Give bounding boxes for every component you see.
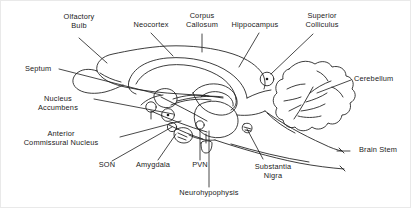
label-olfactory-bulb: Olfactory Bulb [64, 13, 95, 30]
midbrain-dorsal [247, 90, 271, 98]
label-neocortex: Neocortex [133, 21, 168, 30]
anterior-commissure-arc [141, 95, 163, 105]
nucleus-accumbens-dot [167, 114, 170, 117]
label-hippocampus: Hippocampus [232, 21, 279, 30]
label-corpus-callosum: Corpus Callosum [186, 12, 218, 29]
superior-colliculus-dot [266, 78, 269, 81]
cerebellum-arbor-main [294, 87, 313, 119]
amygdala-hatch-1 [178, 133, 187, 137]
label-pvn: PVN [192, 161, 208, 170]
label-neurohypophysis: Neurohypophysis [179, 189, 238, 198]
cerebellum-arbor-b2 [301, 104, 325, 111]
label-anterior-commissural-nucleus: Anterior Commissural Nucleus [24, 130, 99, 147]
label-nucleus-accumbens: Nucleus Accumbens [38, 95, 78, 112]
leader-son [112, 127, 172, 161]
cerebellum-folia-1 [287, 84, 305, 89]
cerebellum-folia-3 [289, 105, 301, 111]
corpus-callosum-outer [129, 58, 247, 98]
hippocampus-inner-fold [201, 92, 233, 106]
neurohypophysis-outline [201, 141, 212, 153]
brain-diagram-figure: Olfactory Bulb Neocortex Corpus Callosum… [0, 0, 411, 208]
label-amygdala: Amygdala [136, 161, 170, 170]
amygdala-hatch-2 [178, 137, 186, 140]
cerebellum-folia-5 [332, 87, 343, 97]
label-superior-colliculus: Superior Colliculus [305, 12, 338, 29]
leader-neocortex [151, 33, 173, 56]
leader-anterior-commissural [120, 121, 181, 137]
leader-superior-colliculus [271, 34, 313, 74]
label-brain-stem: Brain Stem [359, 146, 397, 155]
label-cerebellum: Cerebellum [354, 75, 393, 84]
corpus-callosum-inner [136, 65, 236, 99]
cerebellum-folia-4 [317, 71, 328, 81]
cortex-ventral-edge [97, 71, 223, 98]
leader-olfactory-bulb [79, 38, 107, 63]
midbrain-ventral [237, 111, 265, 115]
label-son: SON [99, 161, 115, 170]
cerebellum-folia-2 [284, 97, 301, 101]
substantia-nigra-hatch-1 [244, 127, 251, 129]
leader-hippocampus [239, 33, 259, 67]
cerebellum-arbor-b4 [298, 116, 321, 118]
septum-outline [154, 89, 177, 108]
leader-cerebellum [317, 80, 351, 93]
pvn-outline [196, 121, 204, 129]
brainstem-inner-line [231, 144, 309, 162]
leader-substantia-nigra [247, 129, 263, 159]
leader-amygdala [158, 134, 176, 160]
pons-curve [267, 113, 295, 133]
label-substantia-nigra: Substantia Nigra [255, 163, 291, 180]
label-septum: Septum [25, 65, 51, 74]
